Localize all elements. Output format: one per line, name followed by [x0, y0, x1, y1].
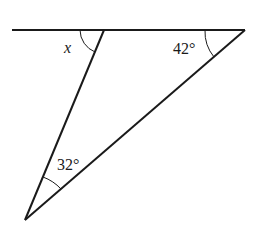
- triangle-diagram: x 42° 32°: [0, 0, 258, 227]
- side-a-c: [25, 30, 104, 220]
- side-b-c: [25, 30, 245, 220]
- angle-x-arc: [80, 30, 95, 52]
- angle-c-label: 32°: [57, 156, 79, 173]
- angle-b-arc: [205, 30, 214, 57]
- angle-x-label: x: [63, 39, 71, 56]
- angle-c-arc: [43, 177, 61, 189]
- angle-b-label: 42°: [173, 40, 195, 57]
